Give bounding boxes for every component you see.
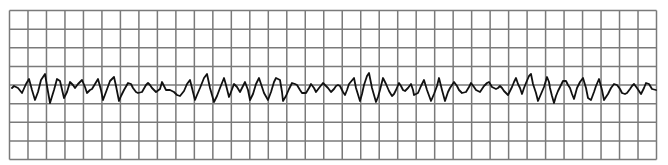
ecg-trace (12, 73, 656, 103)
ecg-grid (10, 11, 657, 160)
ecg-strip (0, 0, 668, 165)
